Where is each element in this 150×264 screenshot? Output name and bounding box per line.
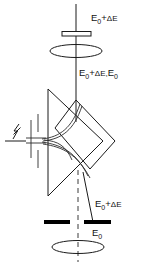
diagram-root: E0+ΔE E0+ΔE,E0 E0+ΔE E0 xyxy=(0,0,150,264)
label-lower-deflected-delta: ΔE xyxy=(111,200,122,209)
label-top-beam-delta: ΔE xyxy=(107,14,118,23)
label-mixed-beam-delta: ΔE, xyxy=(95,69,108,78)
figure-background xyxy=(0,0,150,264)
label-lower-direct-subscript: 0 xyxy=(98,233,102,240)
detector-bar-right xyxy=(84,220,111,224)
label-top-beam: E0+ΔE xyxy=(91,12,118,25)
label-mixed-beam: E0+ΔE,E0 xyxy=(79,67,118,80)
label-lower-deflected: E0+ΔE xyxy=(95,198,122,211)
detector-bar-left xyxy=(44,220,70,224)
schematic-figure: E0+ΔE E0+ΔE,E0 E0+ΔE E0 xyxy=(0,0,150,264)
label-mixed-beam-subscript2: 0 xyxy=(114,73,118,80)
top-aperture-bar xyxy=(62,32,91,37)
